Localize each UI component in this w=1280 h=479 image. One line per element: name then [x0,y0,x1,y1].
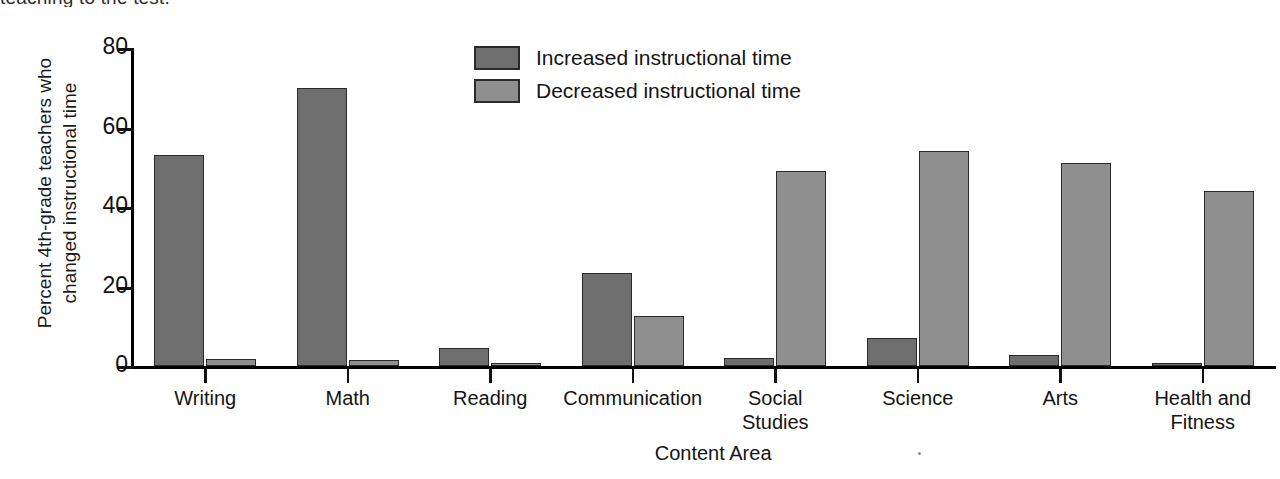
legend-item-increased[interactable]: Increased instructional time [474,42,801,73]
y-tick-mark [118,48,134,51]
bar-decreased[interactable] [491,363,541,366]
y-tick-label: 80 [82,35,128,58]
bar-increased[interactable] [1152,363,1202,366]
y-tick-mark [118,287,134,290]
bar-decreased[interactable] [919,151,969,366]
legend-label-increased: Increased instructional time [536,46,792,70]
bar-decreased[interactable] [349,360,399,366]
bar-decreased[interactable] [206,359,256,366]
x-tick-mark [489,369,492,383]
x-tick-mark [347,369,350,383]
x-tick-mark [204,369,207,383]
bar-decreased[interactable] [776,171,826,366]
x-tick-mark [1202,369,1205,383]
bar-increased[interactable] [439,348,489,366]
bar-decreased[interactable] [1061,163,1111,366]
bar-decreased[interactable] [1204,191,1254,366]
x-tick-mark [632,369,635,383]
chart-legend: Increased instructional time Decreased i… [474,42,801,108]
y-tick-label: 60 [82,115,128,138]
x-axis-title: Content Area [655,442,772,465]
y-tick-mark [118,207,134,210]
y-tick-label: 20 [82,274,128,297]
y-tick-mark [118,366,134,369]
legend-swatch-increased [474,46,520,70]
y-tick-label: 0 [82,353,128,376]
bar-increased[interactable] [582,273,632,366]
x-category-label: Health and Fitness [1117,386,1280,434]
bar-increased[interactable] [1009,355,1059,366]
y-tick-label: 40 [82,194,128,217]
bar-increased[interactable] [154,155,204,366]
x-tick-mark [774,369,777,383]
y-tick-mark [118,128,134,131]
scan-artifact-speck [918,452,921,455]
legend-item-decreased[interactable]: Decreased instructional time [474,75,801,106]
x-tick-mark [917,369,920,383]
legend-swatch-decreased [474,79,520,103]
bar-increased[interactable] [867,338,917,366]
legend-label-decreased: Decreased instructional time [536,79,801,103]
x-axis-line [131,366,1276,369]
bar-increased[interactable] [297,88,347,366]
bar-increased[interactable] [724,358,774,366]
x-tick-mark [1059,369,1062,383]
bar-decreased[interactable] [634,316,684,366]
